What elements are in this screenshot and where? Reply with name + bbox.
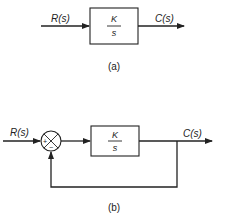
summing-junction: + − — [41, 131, 61, 151]
minus-sign: − — [49, 144, 53, 151]
output-label-b: C(s) — [183, 128, 202, 139]
block-numerator-b: K — [112, 130, 119, 140]
caption-b: (b) — [108, 202, 120, 213]
block-diagram-canvas: R(s) K s C(s) (a) R(s) + − K s C(s) (b) — [0, 0, 226, 214]
diagram-a: R(s) K s C(s) (a) — [41, 8, 184, 72]
block-numerator-a: K — [111, 14, 118, 24]
caption-a: (a) — [108, 61, 120, 72]
output-label-a: C(s) — [155, 13, 174, 24]
block-denominator-a: s — [112, 28, 117, 38]
input-label-b: R(s) — [10, 127, 29, 138]
diagram-b: R(s) + − K s C(s) (b) — [3, 126, 212, 213]
input-label-a: R(s) — [51, 13, 70, 24]
block-denominator-b: s — [113, 143, 118, 153]
plus-sign: + — [43, 138, 47, 145]
